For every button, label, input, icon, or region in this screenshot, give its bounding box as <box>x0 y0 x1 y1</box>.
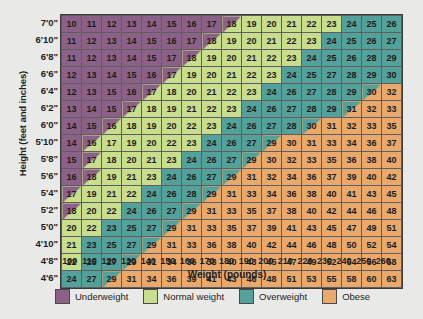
bmi-cell: 23 <box>302 33 322 50</box>
bmi-cell: 13 <box>82 67 102 84</box>
bmi-cell: 23 <box>262 67 282 84</box>
bmi-cell: 45 <box>322 220 342 237</box>
bmi-cell: 18 <box>62 203 82 220</box>
table-row: 2123252729313336384042444648505254 <box>62 237 402 254</box>
table-row: 1112131415161718192021222324252627 <box>62 33 402 50</box>
bmi-cell: 15 <box>142 33 162 50</box>
bmi-cell: 24 <box>222 118 242 135</box>
bmi-cell: 20 <box>162 118 182 135</box>
bmi-cell: 40 <box>242 237 262 254</box>
bmi-cell: 16 <box>122 84 142 101</box>
bmi-cell: 47 <box>342 220 362 237</box>
row-label: 6'2" <box>18 99 58 116</box>
bmi-cell: 26 <box>362 33 382 50</box>
row-label: 4'10" <box>18 235 58 252</box>
bmi-cell: 18 <box>82 169 102 186</box>
bmi-cell: 12 <box>82 33 102 50</box>
bmi-cell: 20 <box>242 33 262 50</box>
bmi-cell: 38 <box>222 237 242 254</box>
bmi-cell: 31 <box>182 220 202 237</box>
bmi-cell: 14 <box>122 50 142 67</box>
bmi-cell: 30 <box>282 135 302 152</box>
bmi-cell: 28 <box>322 84 342 101</box>
bmi-cell: 19 <box>202 50 222 67</box>
bmi-cell: 15 <box>142 50 162 67</box>
legend-swatch <box>322 289 337 304</box>
bmi-cell: 37 <box>262 203 282 220</box>
bmi-cell: 21 <box>282 16 302 33</box>
bmi-cell: 22 <box>242 67 262 84</box>
legend-item: Underweight <box>55 289 128 304</box>
bmi-cell: 14 <box>82 101 102 118</box>
bmi-cell: 45 <box>382 186 402 203</box>
bmi-cell: 20 <box>122 152 142 169</box>
bmi-cell: 50 <box>342 237 362 254</box>
bmi-cell: 32 <box>382 84 402 101</box>
row-label: 4'8" <box>18 252 58 269</box>
bmi-cell: 27 <box>282 101 302 118</box>
bmi-cell: 22 <box>262 50 282 67</box>
bmi-cell: 25 <box>302 67 322 84</box>
bmi-cell: 23 <box>162 152 182 169</box>
bmi-cell: 25 <box>362 16 382 33</box>
bmi-cell: 33 <box>242 186 262 203</box>
bmi-cell: 27 <box>222 152 242 169</box>
row-label: 6'0" <box>18 116 58 133</box>
bmi-cell: 22 <box>82 220 102 237</box>
table-row: 1011121314151617181920212223242526 <box>62 16 402 33</box>
table-row: 2022232527293133353739414345474951 <box>62 220 402 237</box>
bmi-cell: 26 <box>342 50 362 67</box>
row-label: 4'6" <box>18 269 58 286</box>
bmi-cell: 23 <box>222 101 242 118</box>
bmi-cell: 17 <box>62 186 82 203</box>
bmi-cell: 31 <box>322 118 342 135</box>
bmi-cell: 27 <box>262 118 282 135</box>
bmi-cell: 31 <box>202 203 222 220</box>
bmi-grid-body: 1011121314151617181920212223242526111213… <box>62 16 402 288</box>
bmi-cell: 21 <box>62 237 82 254</box>
bmi-cell: 29 <box>142 237 162 254</box>
column-label: 160 <box>178 256 198 266</box>
bmi-cell: 38 <box>282 203 302 220</box>
row-label: 5'8" <box>18 150 58 167</box>
column-label: 170 <box>197 256 217 266</box>
bmi-cell: 34 <box>262 186 282 203</box>
bmi-cell: 34 <box>342 135 362 152</box>
bmi-cell: 25 <box>102 237 122 254</box>
bmi-cell: 17 <box>162 67 182 84</box>
bmi-cell: 17 <box>142 84 162 101</box>
bmi-cell: 19 <box>182 67 202 84</box>
bmi-cell: 27 <box>202 169 222 186</box>
bmi-cell: 26 <box>262 101 282 118</box>
bmi-cell: 32 <box>342 118 362 135</box>
bmi-cell: 39 <box>342 169 362 186</box>
bmi-cell: 34 <box>282 169 302 186</box>
bmi-cell: 42 <box>262 237 282 254</box>
column-label: 100 <box>60 256 80 266</box>
bmi-cell: 15 <box>62 152 82 169</box>
bmi-cell: 46 <box>362 203 382 220</box>
bmi-cell: 12 <box>102 16 122 33</box>
bmi-cell: 29 <box>342 84 362 101</box>
legend-item: Obese <box>322 289 370 304</box>
bmi-cell: 18 <box>102 152 122 169</box>
legend-label: Underweight <box>75 291 128 302</box>
bmi-cell: 33 <box>202 220 222 237</box>
bmi-cell: 23 <box>202 118 222 135</box>
bmi-cell: 18 <box>182 50 202 67</box>
bmi-cell: 49 <box>362 220 382 237</box>
bmi-cell: 28 <box>182 186 202 203</box>
row-label: 5'4" <box>18 184 58 201</box>
row-label-column: 7'0"6'10"6'8"6'6"6'4"6'2"6'0"5'10"5'8"5'… <box>18 14 58 286</box>
bmi-cell: 13 <box>102 33 122 50</box>
column-label: 130 <box>119 256 139 266</box>
bmi-cell: 24 <box>162 169 182 186</box>
column-label: 190 <box>236 256 256 266</box>
bmi-cell: 20 <box>182 84 202 101</box>
bmi-cell: 48 <box>382 203 402 220</box>
bmi-cell: 27 <box>122 237 142 254</box>
bmi-cell: 38 <box>302 186 322 203</box>
bmi-cell: 24 <box>122 203 142 220</box>
bmi-cell: 27 <box>302 84 322 101</box>
table-row: 1213151617182021222324262728293032 <box>62 84 402 101</box>
